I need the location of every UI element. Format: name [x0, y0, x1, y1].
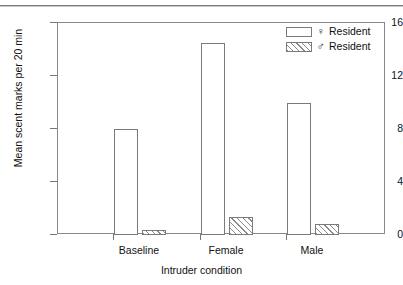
- x-tick-male: [286, 234, 287, 240]
- legend-swatch-hatched-box: [286, 42, 312, 52]
- y-tick-8: [50, 128, 57, 129]
- y-tick-4: [50, 181, 57, 182]
- legend-swatch-open-box: [286, 27, 312, 37]
- plot-area: [57, 22, 385, 234]
- x-tick-label-baseline: Baseline: [119, 244, 159, 256]
- y-tick-16: [50, 22, 57, 23]
- x-tick-label-male: Male: [301, 244, 324, 256]
- bar-male-male-resident: [315, 224, 339, 235]
- legend-label-female-resident: Resident: [329, 26, 370, 37]
- legend-item-male-resident: ♂ Resident: [286, 41, 370, 52]
- legend: ♀ Resident ♂ Resident: [286, 26, 370, 52]
- x-tick-female: [200, 234, 201, 240]
- bar-baseline-female-resident: [114, 129, 138, 235]
- x-tick-baseline: [113, 234, 114, 240]
- x-tick-label-female: Female: [208, 244, 243, 256]
- male-symbol-icon: ♂: [316, 41, 325, 52]
- bar-baseline-male-resident: [142, 230, 166, 235]
- y-tick-0: [50, 234, 57, 235]
- x-axis-label: Intruder condition: [0, 264, 403, 276]
- legend-item-female-resident: ♀ Resident: [286, 26, 370, 37]
- page-rule-bottom: [0, 6, 403, 7]
- bar-female-male-resident: [229, 217, 253, 235]
- y-tick-12: [50, 75, 57, 76]
- figure-root: Mean scent marks per 20 min 0481216 Base…: [0, 0, 403, 285]
- y-axis-label: Mean scent marks per 20 min: [12, 18, 24, 178]
- bar-female-female-resident: [201, 43, 225, 235]
- female-symbol-icon: ♀: [316, 26, 325, 37]
- bar-male-female-resident: [287, 103, 311, 236]
- legend-label-male-resident: Resident: [329, 41, 370, 52]
